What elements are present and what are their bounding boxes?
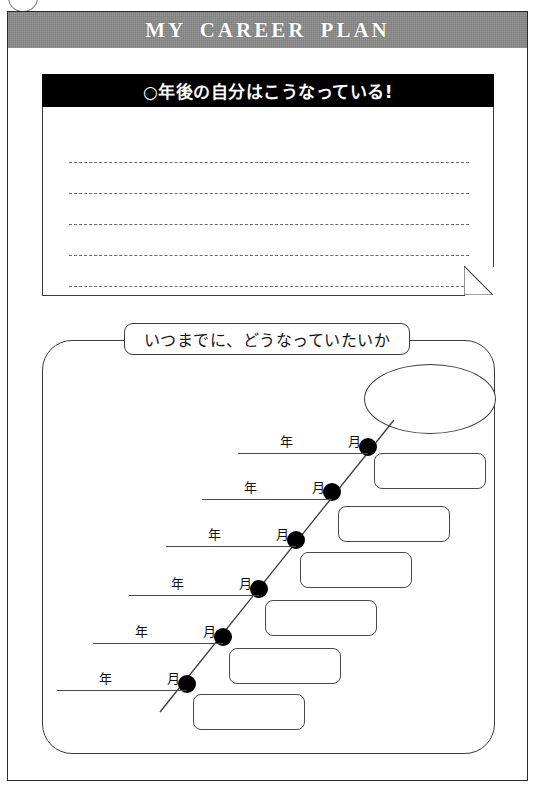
date-row[interactable]: 年 月 [238, 424, 368, 454]
note-line[interactable] [69, 255, 469, 256]
future-self-note-card: ○年後の自分はこうなっている! [42, 74, 494, 296]
date-write-rule[interactable] [129, 595, 259, 596]
date-row[interactable]: 年 月 [93, 614, 223, 644]
month-label: 月 [312, 477, 325, 496]
milestone-note-box[interactable] [193, 694, 305, 730]
year-label: 年 [99, 668, 112, 687]
milestone-note-box[interactable] [338, 506, 450, 542]
milestone-note-box[interactable] [374, 453, 486, 489]
date-write-rule[interactable] [93, 643, 223, 644]
month-label: 月 [348, 431, 361, 450]
roadmap-label-box: いつまでに、どうなっていたいか [124, 323, 410, 355]
roadmap-label: いつまでに、どうなっていたいか [144, 327, 391, 351]
dog-ear-fold-icon [464, 266, 493, 295]
goal-bubble[interactable] [364, 364, 496, 434]
note-writing-lines [69, 162, 469, 317]
note-card-header-label: ○年後の自分はこうなっている! [143, 78, 393, 103]
date-row[interactable]: 年 月 [202, 470, 332, 500]
date-write-rule[interactable] [202, 499, 332, 500]
date-row[interactable]: 年 月 [129, 566, 259, 596]
milestone-note-box[interactable] [300, 552, 412, 588]
date-row[interactable]: 年 月 [166, 517, 296, 547]
milestone-note-box[interactable] [229, 648, 341, 684]
month-label: 月 [167, 668, 180, 687]
page-title: MY CAREER PLAN [145, 18, 390, 43]
year-label: 年 [171, 573, 184, 592]
note-line[interactable] [69, 224, 469, 225]
note-line[interactable] [69, 286, 469, 287]
note-line[interactable] [69, 162, 469, 163]
career-plan-worksheet: MY CAREER PLAN ○年後の自分はこうなっている! [0, 0, 536, 795]
date-write-rule[interactable] [166, 546, 296, 547]
year-label: 年 [208, 524, 221, 543]
date-row[interactable]: 年 月 [57, 661, 187, 691]
date-write-rule[interactable] [238, 453, 368, 454]
month-label: 月 [203, 621, 216, 640]
page-title-band: MY CAREER PLAN [8, 12, 527, 48]
note-card-header: ○年後の自分はこうなっている! [42, 74, 494, 107]
milestone-note-box[interactable] [265, 600, 377, 636]
year-label: 年 [280, 431, 293, 450]
date-write-rule[interactable] [57, 690, 187, 691]
month-label: 月 [239, 573, 252, 592]
year-label: 年 [244, 477, 257, 496]
note-card-body[interactable] [42, 107, 494, 296]
year-label: 年 [135, 621, 148, 640]
note-line[interactable] [69, 193, 469, 194]
month-label: 月 [276, 524, 289, 543]
